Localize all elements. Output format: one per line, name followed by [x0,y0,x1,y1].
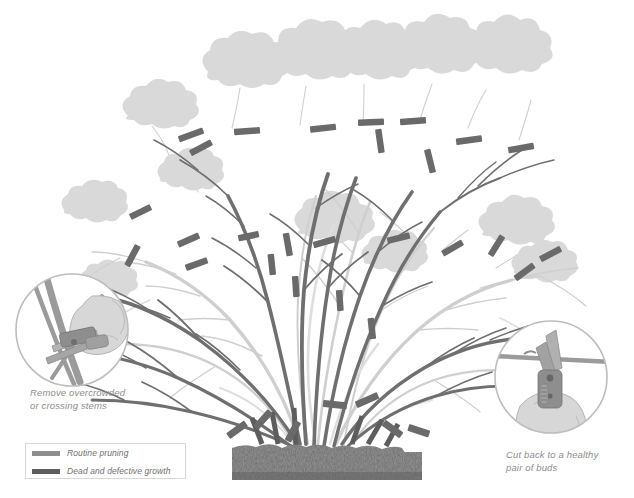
legend-label-dead-growth: Dead and defective growth [67,466,171,476]
inset-right-caption: Cut back to a healthy pair of buds [506,448,626,474]
legend-label-routine-pruning: Routine pruning [67,448,129,458]
inset-cut-to-buds [0,0,634,498]
legend-item-routine-pruning: Routine pruning [26,444,185,462]
legend-swatch-routine-pruning [32,451,60,456]
legend-swatch-dead-growth [32,469,60,474]
inset-left-caption: Remove overcrowded or crossing stems [30,386,160,412]
legend-item-dead-growth: Dead and defective growth [26,462,185,480]
illustration-canvas: Remove overcrowded or crossing stems Cut… [0,0,634,498]
legend-box: Routine pruning Dead and defective growt… [25,443,186,479]
